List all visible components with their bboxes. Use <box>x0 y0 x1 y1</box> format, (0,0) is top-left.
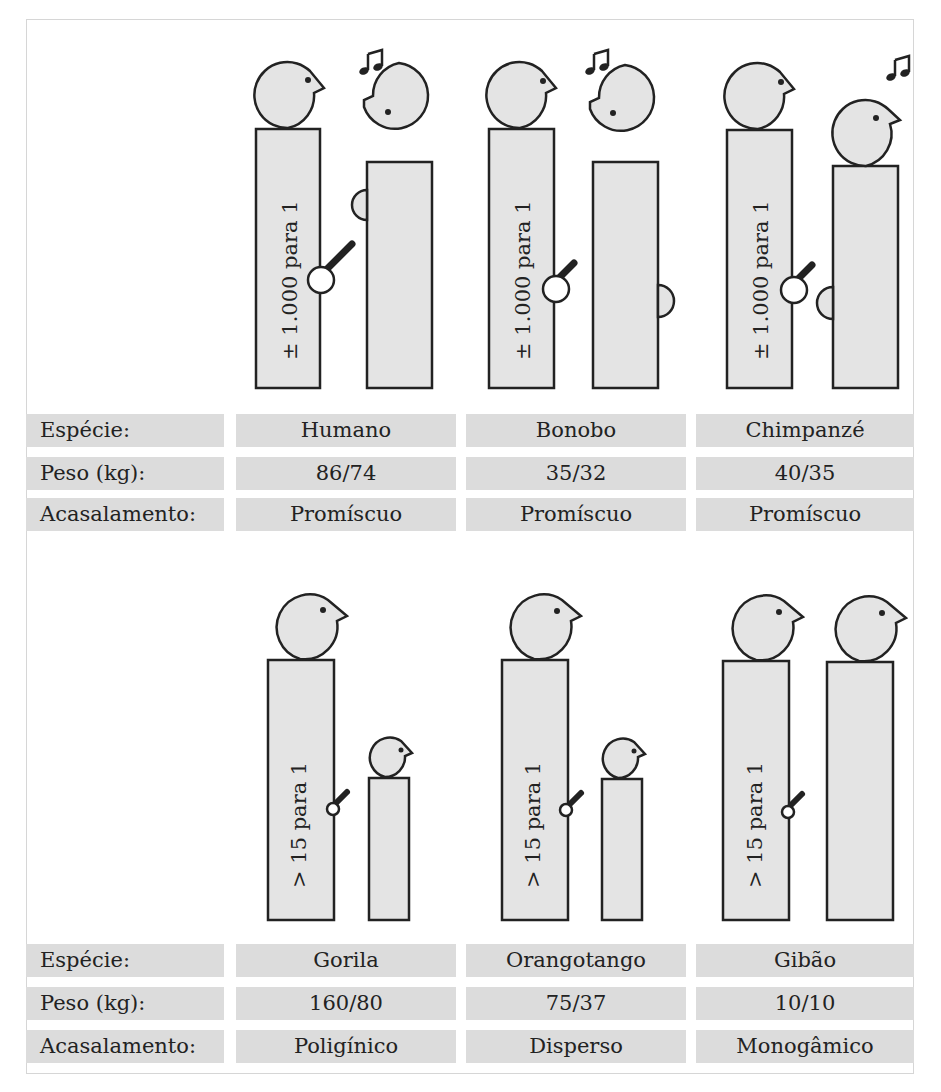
row-label-mating: Acasalamento: <box>26 1030 224 1063</box>
gibbon-male-figure: > 15 para 1 <box>723 595 803 920</box>
gorilla-female-figure <box>369 738 412 920</box>
figures-group-2: > 15 para 1 > 15 para 1 > 15 para 1 <box>0 0 941 940</box>
orangutan-male-figure: > 15 para 1 <box>502 594 581 920</box>
mating-gorilla: Poligínico <box>236 1030 456 1063</box>
weight-gibbon: 10/10 <box>696 987 914 1020</box>
row-label-species: Espécie: <box>26 944 224 977</box>
weight-gorilla: 160/80 <box>236 987 456 1020</box>
row-label-weight: Peso (kg): <box>26 987 224 1020</box>
mating-gibbon: Monogâmico <box>696 1030 914 1063</box>
ratio-label: > 15 para 1 <box>743 762 767 888</box>
ratio-label: > 15 para 1 <box>287 762 311 888</box>
species-name-orangutan: Orangotango <box>466 944 686 977</box>
species-name-gibbon: Gibão <box>696 944 914 977</box>
ratio-label: > 15 para 1 <box>521 762 545 888</box>
species-name-gorilla: Gorila <box>236 944 456 977</box>
gibbon-female-figure <box>827 596 906 920</box>
orangutan-female-figure <box>602 739 645 920</box>
gorilla-male-figure: > 15 para 1 <box>268 594 347 920</box>
weight-orangutan: 75/37 <box>466 987 686 1020</box>
mating-orangutan: Disperso <box>466 1030 686 1063</box>
